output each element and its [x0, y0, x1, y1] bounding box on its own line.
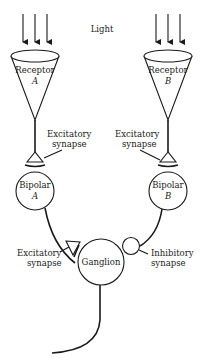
- svg-text:synapse: synapse: [122, 139, 157, 149]
- light-label: Light: [91, 24, 114, 34]
- light-arrows-left: [23, 14, 47, 42]
- svg-text:Receptor: Receptor: [15, 65, 55, 75]
- svg-text:Excitatory: Excitatory: [47, 129, 92, 139]
- light-arrows-right: [156, 14, 180, 42]
- svg-text:Bipolar: Bipolar: [152, 180, 184, 190]
- svg-text:synapse: synapse: [27, 258, 62, 268]
- ganglion-cell: Ganglion: [52, 239, 124, 353]
- svg-text:Excitatory: Excitatory: [17, 248, 62, 258]
- svg-text:synapse: synapse: [151, 258, 186, 268]
- svg-text:B: B: [164, 191, 171, 201]
- excitatory-synapse-a-bottom: Excitatory synapse: [17, 241, 80, 268]
- svg-text:B: B: [164, 76, 171, 86]
- svg-text:synapse: synapse: [52, 139, 87, 149]
- bipolar-b: Bipolar B: [140, 172, 187, 246]
- svg-text:Bipolar: Bipolar: [19, 180, 51, 190]
- svg-text:A: A: [31, 191, 38, 201]
- svg-text:Inhibitory: Inhibitory: [151, 248, 194, 258]
- svg-text:Ganglion: Ganglion: [82, 257, 121, 267]
- retina-circuit-diagram: Light Receptor A Receptor B Excitatory s…: [0, 0, 205, 364]
- svg-text:Excitatory: Excitatory: [115, 129, 160, 139]
- inhibitory-synapse-b: Inhibitory synapse: [123, 238, 194, 269]
- svg-text:A: A: [31, 76, 38, 86]
- svg-text:Receptor: Receptor: [148, 65, 188, 75]
